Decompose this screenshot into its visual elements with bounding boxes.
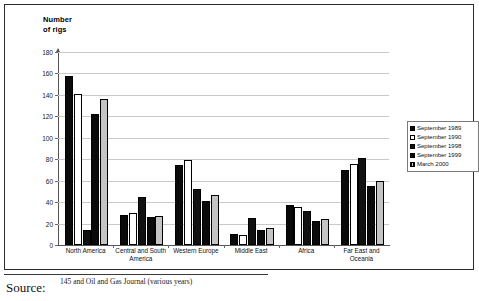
bar [321,219,329,245]
x-axis-tick-mark [168,245,169,248]
y-axis-tick-mark [55,73,58,74]
legend-item-label: September 1998 [417,143,461,150]
bar [184,160,192,245]
y-axis-tick-mark [55,116,58,117]
x-axis-tick-mark [334,245,335,248]
y-axis-tick-mark [55,159,58,160]
bar [266,228,274,245]
bar-group [65,52,108,245]
x-axis-category-label: Western Europe [168,247,223,255]
y-axis-tick-label: 140 [42,91,53,98]
bar [138,197,146,245]
bar [376,181,384,245]
bar [147,217,155,245]
bar [120,215,128,245]
bar-group [230,52,273,245]
y-axis-tick-label: 80 [46,156,53,163]
x-axis-tick-mark [224,245,225,248]
y-axis-tick-label: 160 [42,70,53,77]
bar [303,211,311,245]
bar [155,216,163,245]
y-axis-tick-label: 40 [46,199,53,206]
bar [239,235,247,245]
y-axis-tick-mark [55,245,58,246]
bar [100,99,108,245]
x-axis-category-label: Central and South America [113,247,168,263]
bar [129,213,137,245]
y-axis-title: Number of rigs [43,15,72,35]
bar [248,218,256,245]
bar-group [286,52,329,245]
bar [341,170,349,245]
legend-item: September 1990 [410,133,476,142]
bar [350,164,358,245]
y-axis-tick-label: 20 [46,220,53,227]
y-axis-tick-label: 60 [46,177,53,184]
legend-item: March 2000 [410,160,476,169]
bar-group [120,52,163,245]
bar [211,195,219,245]
y-axis-tick-label: 180 [42,49,53,56]
y-axis-tick-label: 120 [42,113,53,120]
legend-swatch-icon [410,162,415,167]
bar-group [341,52,384,245]
legend-item: September 1989 [410,124,476,133]
bar [65,76,73,245]
legend-item-label: September 1990 [417,134,461,141]
bar [193,189,201,245]
legend-swatch-icon [410,135,415,140]
bar [74,94,82,245]
legend-item: September 1998 [410,142,476,151]
y-axis-tick-mark [55,181,58,182]
legend-swatch-icon [410,126,415,131]
y-axis-tick-label: 100 [42,134,53,141]
bar [358,158,366,245]
bar [91,114,99,245]
legend-swatch-icon [410,153,415,158]
y-axis-tick-mark [55,224,58,225]
x-axis-category-label: North America [58,247,113,255]
chart-legend: September 1989September 1990September 19… [407,121,479,172]
bar [286,205,294,245]
source-divider [4,274,268,275]
y-axis-title-line2: of rigs [43,25,72,35]
x-axis-category-label: Middle East [224,247,279,255]
bar [257,230,265,245]
x-axis-tick-mark [279,245,280,248]
y-axis-tick-mark [55,202,58,203]
y-axis-tick-mark [55,138,58,139]
legend-item-label: March 2000 [417,161,449,168]
bar [230,234,238,245]
bar [175,165,183,245]
bar [367,186,375,245]
y-axis-tick-label: 0 [49,242,53,249]
source-label: Source: [6,280,46,296]
bar [312,221,320,245]
bar [83,230,91,245]
x-axis-category-label: Far East and Oceania [334,247,389,263]
plot-area: 020406080100120140160180 North AmericaCe… [58,52,389,245]
y-axis-tick-mark [55,52,58,53]
x-axis-tick-mark [113,245,114,248]
bar-group [175,52,218,245]
bar [294,207,302,245]
bar [202,201,210,245]
y-axis-tick-mark [55,95,58,96]
chart-frame: Number of rigs 020406080100120140160180 … [4,4,474,270]
legend-item-label: September 1989 [417,125,461,132]
legend-swatch-icon [410,144,415,149]
legend-item-label: September 1999 [417,152,461,159]
source-text: 145 and Oil and Gas Journal (various yea… [60,277,192,286]
y-axis-title-line1: Number [43,15,72,25]
x-axis-category-label: Africa [279,247,334,255]
legend-item: September 1999 [410,151,476,160]
